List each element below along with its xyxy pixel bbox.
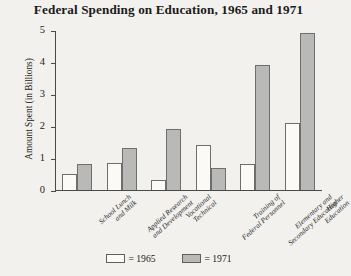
y-axis-title: Amount Spent (in Billions) [24, 34, 34, 184]
y-tick: 0 [51, 191, 56, 192]
x-axis-label: Training ofFederal Personnel [235, 193, 287, 242]
legend-item-1971[interactable]: = 1971 [182, 253, 232, 264]
legend-label-1971: = 1971 [205, 253, 232, 264]
bar-1965 [107, 163, 122, 190]
y-tick-label: 0 [40, 184, 45, 196]
bar-group [189, 30, 234, 190]
legend-swatch-1971 [182, 254, 201, 263]
x-axis-label: School Lunchand Milk [98, 193, 139, 233]
x-axis-label: VocationalTechnical [184, 193, 219, 227]
chart-legend: = 1965= 1971 [0, 253, 337, 264]
bar-group [278, 30, 323, 190]
y-tick-label: 3 [40, 88, 45, 100]
bar-1971 [166, 129, 181, 190]
bar-group [233, 30, 278, 190]
legend-label-1965: = 1965 [129, 253, 156, 264]
y-tick-label: 2 [40, 120, 45, 132]
plot-area: 012345 [55, 31, 322, 191]
chart-title: Federal Spending on Education, 1965 and … [0, 2, 337, 18]
bar-1965 [240, 164, 255, 190]
bar-1971 [122, 148, 137, 190]
bar-1965 [151, 180, 166, 190]
bar-group [144, 30, 189, 190]
bar-1971 [211, 168, 226, 190]
bar-1971 [255, 65, 270, 190]
bar-group [100, 30, 145, 190]
y-tick-label: 5 [40, 24, 45, 36]
y-tick-label: 1 [40, 152, 45, 164]
bar-1971 [77, 164, 92, 190]
bar-groups [55, 30, 322, 190]
bar-1965 [196, 145, 211, 190]
bar-group [55, 30, 100, 190]
legend-item-1965[interactable]: = 1965 [106, 253, 156, 264]
bar-1965 [62, 174, 77, 190]
x-axis-labels: School Lunchand MilkApplied Researchand … [55, 193, 322, 249]
bar-1971 [300, 33, 315, 190]
y-tick-label: 4 [40, 56, 45, 68]
x-axis-line [55, 190, 322, 191]
bar-1965 [285, 123, 300, 190]
legend-swatch-1965 [106, 254, 125, 263]
